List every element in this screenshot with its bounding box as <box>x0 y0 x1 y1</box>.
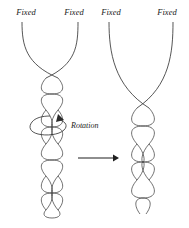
right-panel: Fixed Fixed <box>100 7 177 214</box>
helix-right-loops-detail <box>132 144 155 180</box>
rotation-label: Rotation <box>70 121 99 130</box>
fixed-label-right-2: Fixed <box>156 7 177 17</box>
fixed-label-left-2: Fixed <box>63 7 84 17</box>
helix-left-strand-2 <box>41 78 62 218</box>
strand-right-a <box>109 22 149 108</box>
transition-arrow <box>78 155 119 162</box>
strand-left-b <box>46 22 78 78</box>
diagram-canvas: Fixed Fixed Rotation <box>0 0 189 228</box>
left-panel: Fixed Fixed Rotation <box>15 7 98 218</box>
strand-right-b <box>137 22 173 108</box>
strand-left-a <box>22 22 58 78</box>
helix-left-strand-1 <box>41 78 62 218</box>
supercoiling-diagram: Fixed Fixed Rotation <box>0 0 189 228</box>
fixed-label-left-1: Fixed <box>15 7 36 17</box>
helix-left <box>41 78 62 218</box>
helix-right <box>132 108 155 214</box>
fixed-label-right-1: Fixed <box>100 7 121 17</box>
transition-arrow-head <box>113 155 119 162</box>
helix-right-strand-2 <box>132 108 155 214</box>
